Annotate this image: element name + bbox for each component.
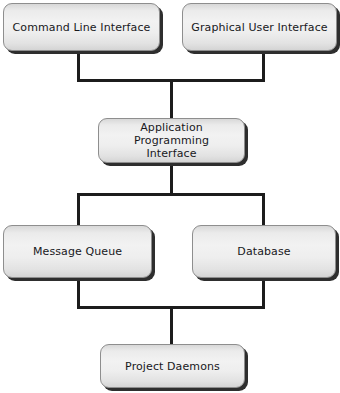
connector-bus-middle xyxy=(77,193,265,196)
node-graphical-user-interface-label: Graphical User Interface xyxy=(185,21,333,34)
node-project-daemons[interactable]: Project Daemons xyxy=(100,344,245,388)
node-project-daemons-label: Project Daemons xyxy=(119,360,226,373)
connector-bus-top-to-api xyxy=(170,79,173,119)
connector-gui-to-bus xyxy=(262,51,265,82)
connector-bus-to-database xyxy=(262,193,265,226)
node-application-programming-interface-label: Application Programming Interface xyxy=(99,121,244,160)
node-database[interactable]: Database xyxy=(192,225,336,278)
node-database-label: Database xyxy=(231,245,296,258)
node-command-line-interface[interactable]: Command Line Interface xyxy=(3,3,160,51)
connector-database-to-bus xyxy=(262,277,265,308)
connector-api-to-bus xyxy=(170,162,173,196)
connector-message-queue-to-bus xyxy=(77,277,80,308)
diagram-canvas: Command Line Interface Graphical User In… xyxy=(0,0,340,393)
node-command-line-interface-label: Command Line Interface xyxy=(7,21,157,34)
node-graphical-user-interface[interactable]: Graphical User Interface xyxy=(182,3,337,51)
connector-cli-to-bus xyxy=(77,51,80,82)
connector-bus-bottom-to-project-daemons xyxy=(170,306,173,346)
connector-bus-to-message-queue xyxy=(77,193,80,226)
node-application-programming-interface[interactable]: Application Programming Interface xyxy=(98,118,245,163)
node-message-queue-label: Message Queue xyxy=(27,245,128,258)
node-message-queue[interactable]: Message Queue xyxy=(3,225,152,278)
